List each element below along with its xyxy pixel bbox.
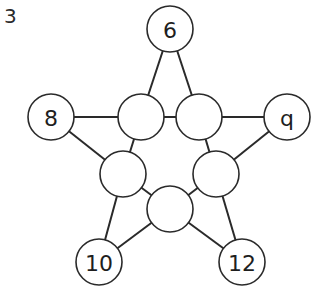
node-outer-bottom-right: 12 xyxy=(219,239,265,285)
empty-circle[interactable] xyxy=(176,94,222,140)
node-outer-top: 6 xyxy=(147,6,193,52)
node-label: 12 xyxy=(228,251,256,276)
diagram-nodes: 68q1012 xyxy=(28,6,310,285)
node-label: 10 xyxy=(85,251,113,276)
node-outer-bottom-left: 10 xyxy=(76,239,122,285)
node-inner-left[interactable] xyxy=(100,151,146,197)
node-label: q xyxy=(280,106,294,131)
empty-circle[interactable] xyxy=(118,94,164,140)
node-outer-right: q xyxy=(264,94,310,140)
empty-circle[interactable] xyxy=(193,151,239,197)
node-inner-bottom[interactable] xyxy=(147,186,193,232)
empty-circle[interactable] xyxy=(100,151,146,197)
star-number-diagram: 68q1012 xyxy=(0,0,329,294)
empty-circle[interactable] xyxy=(147,186,193,232)
node-inner-top-left[interactable] xyxy=(118,94,164,140)
node-label: 8 xyxy=(44,106,58,131)
node-label: 6 xyxy=(163,18,177,43)
node-outer-left: 8 xyxy=(28,94,74,140)
node-inner-top-right[interactable] xyxy=(176,94,222,140)
node-inner-right[interactable] xyxy=(193,151,239,197)
